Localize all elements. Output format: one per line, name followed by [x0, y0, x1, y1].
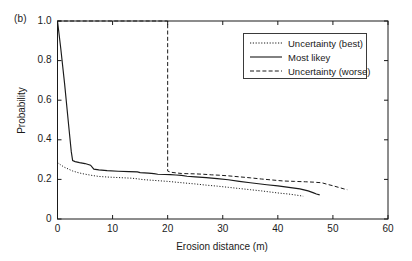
y-tick-label: 0 [16, 213, 52, 224]
legend-label: Most likey [288, 52, 330, 63]
legend-label: Uncertainty (worse) [288, 66, 370, 77]
y-tick-label: 0.6 [16, 94, 52, 105]
legend-item: Uncertainty (worse) [249, 64, 370, 78]
legend-line-sample-best [249, 38, 283, 48]
legend-line-sample-worse [249, 66, 283, 76]
legend: Uncertainty (best) Most likey Uncertaint… [243, 33, 367, 79]
legend-item: Most likey [249, 50, 330, 64]
x-tick-label: 30 [203, 223, 243, 234]
x-tick-label: 10 [93, 223, 133, 234]
y-tick-label: 1.0 [16, 15, 52, 26]
y-tick-label: 0.2 [16, 173, 52, 184]
x-tick-label: 0 [38, 223, 78, 234]
x-tick-label: 40 [258, 223, 298, 234]
x-tick-label: 20 [148, 223, 188, 234]
chart-figure: (b) Probability Erosion distance (m) 00.… [0, 0, 412, 261]
legend-item: Uncertainty (best) [249, 36, 363, 50]
legend-line-sample-most-likely [249, 52, 283, 62]
legend-label: Uncertainty (best) [288, 38, 363, 49]
x-tick-label: 50 [313, 223, 353, 234]
x-tick-label: 60 [368, 223, 408, 234]
y-tick-label: 0.8 [16, 54, 52, 65]
y-tick-label: 0.4 [16, 133, 52, 144]
